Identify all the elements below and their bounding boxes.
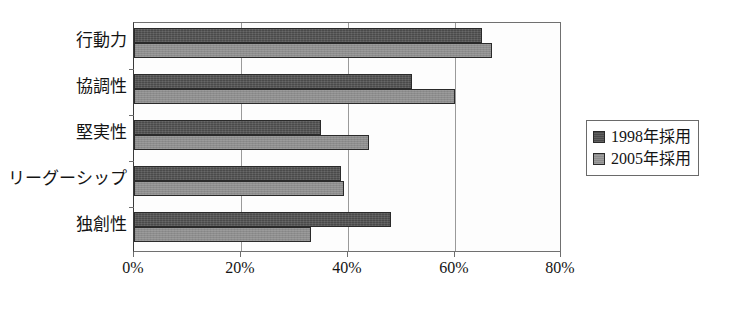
- x-axis-label-3: 60%: [439, 258, 468, 278]
- x-axis-label-4: 80%: [545, 258, 574, 278]
- x-axis-label-0: 0%: [122, 258, 143, 278]
- bar-1998-独創性[interactable]: [134, 212, 391, 227]
- x-axis-tick-60: [454, 252, 455, 257]
- category-label-1: 協調性: [0, 78, 127, 96]
- bar-chart: 行動力 協調性 堅実性 リーグーシップ 独創性: [0, 0, 736, 317]
- bar-2005-行動力[interactable]: [134, 43, 492, 58]
- bar-2005-堅実性[interactable]: [134, 135, 369, 150]
- legend-entry-2005[interactable]: 2005年採用: [593, 148, 691, 170]
- bar-1998-leadership[interactable]: [134, 166, 341, 181]
- category-label-0: 行動力: [0, 32, 127, 50]
- bar-2005-協調性[interactable]: [134, 89, 455, 104]
- bar-2005-独創性[interactable]: [134, 227, 311, 242]
- category-axis-labels: 行動力 協調性 堅実性 リーグーシップ 独創性: [0, 22, 131, 252]
- legend-entry-1998[interactable]: 1998年採用: [593, 126, 691, 148]
- legend-label-1998: 1998年採用: [611, 128, 691, 146]
- x-axis-tick-40: [347, 252, 348, 257]
- plot-area: [133, 22, 561, 252]
- x-axis-tick-80: [560, 252, 561, 257]
- x-axis-labels: 0% 20% 40% 60% 80%: [133, 258, 561, 284]
- light-swatch-icon: [593, 153, 605, 165]
- x-axis-label-1: 20%: [225, 258, 254, 278]
- bar-group-0: [134, 28, 560, 74]
- bar-1998-堅実性[interactable]: [134, 120, 321, 135]
- chart-legend[interactable]: 1998年採用 2005年採用: [586, 120, 699, 176]
- bar-1998-協調性[interactable]: [134, 74, 412, 89]
- bar-group-1: [134, 74, 560, 120]
- category-label-4: 独創性: [0, 216, 127, 234]
- x-axis-label-2: 40%: [332, 258, 361, 278]
- x-axis-tick-20: [240, 252, 241, 257]
- bar-group-3: [134, 166, 560, 212]
- bar-1998-行動力[interactable]: [134, 28, 482, 43]
- x-axis-tick-0: [133, 252, 134, 257]
- bar-2005-leadership[interactable]: [134, 181, 344, 196]
- legend-label-2005: 2005年採用: [611, 150, 691, 168]
- category-label-2: 堅実性: [0, 124, 127, 142]
- dark-swatch-icon: [593, 131, 605, 143]
- bar-group-2: [134, 120, 560, 166]
- category-label-3: リーグーシップ: [0, 170, 127, 188]
